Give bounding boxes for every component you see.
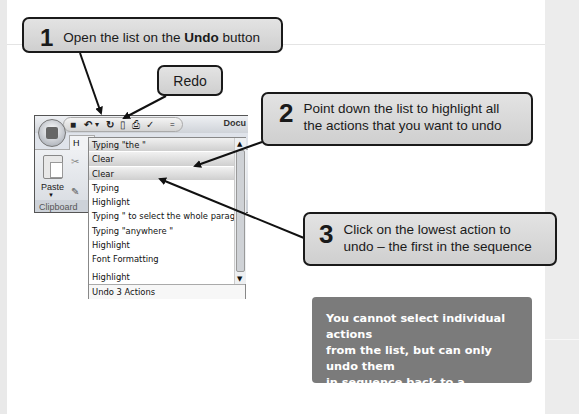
step-text: Point down the list to highlight all the… [303, 100, 501, 134]
list-item[interactable]: Font Formatting [89, 252, 234, 266]
divider [545, 339, 579, 340]
step-text: Click on the lowest action to undo – the… [343, 221, 531, 255]
title-bar: ■ ↶ ▾ ↻ ▯ ⎙ ✓ = Docu [35, 116, 248, 133]
undo-button[interactable]: ↶ [84, 118, 92, 131]
list-item[interactable]: Typing "the " [89, 138, 234, 152]
document-title: Docu [224, 118, 247, 128]
office-logo-icon [46, 127, 58, 139]
step-number: 1 [40, 26, 53, 50]
info-line: in sequence back to a selected point. [326, 375, 522, 407]
redo-callout: Redo [157, 65, 223, 96]
list-item[interactable]: Typing "anywhere " [89, 224, 234, 238]
undo-dropdown-arrow[interactable]: ▾ [95, 118, 99, 131]
scroll-down-icon[interactable]: ▼ [237, 275, 242, 283]
info-line: from the list, but can only undo them [326, 343, 522, 375]
office-button[interactable] [38, 119, 66, 147]
step-number: 2 [279, 100, 293, 126]
undo-count-status: Undo 3 Actions [89, 284, 245, 299]
page-margin-left [0, 0, 7, 414]
new-document-icon[interactable]: ▯ [120, 118, 126, 131]
info-line: You cannot select individual actions [326, 311, 522, 343]
step-3-callout: 3 Click on the lowest action to undo – t… [303, 212, 557, 266]
paste-icon[interactable] [43, 155, 63, 179]
customize-toolbar-button[interactable]: = [170, 118, 175, 131]
step-number: 3 [319, 221, 333, 247]
list-item[interactable]: Highlight [89, 270, 234, 284]
chevron-down-icon[interactable]: ▼ [48, 192, 54, 198]
list-item[interactable]: Clear [89, 152, 234, 166]
cut-icon[interactable]: ✂ [71, 156, 79, 167]
list-item[interactable]: Typing [89, 181, 234, 195]
paste-button-label[interactable]: Paste [41, 182, 64, 192]
list-item[interactable]: Typing " to select the whole paragraph" [89, 209, 234, 223]
info-note: You cannot select individual actions fro… [312, 297, 532, 383]
scrollbar[interactable]: ▲ ▼ [234, 138, 246, 284]
print-icon[interactable]: ⎙ [132, 118, 140, 131]
quick-access-toolbar: ■ ↶ ▾ ↻ ▯ ⎙ ✓ = [63, 117, 183, 132]
redo-button[interactable]: ↻ [106, 118, 114, 131]
step-1-callout: 1 Open the list on the Undo button [22, 17, 283, 53]
list-item[interactable]: Clear [89, 167, 234, 181]
format-painter-icon[interactable]: ✎ [71, 186, 79, 197]
spelling-icon[interactable]: ✓ [146, 118, 154, 131]
page-margin-right [545, 0, 579, 414]
list-item[interactable]: Highlight [89, 195, 234, 209]
redo-label: Redo [173, 73, 206, 89]
step-text: Open the list on the Undo button [63, 29, 260, 46]
step-2-callout: 2 Point down the list to highlight all t… [261, 92, 533, 146]
save-icon[interactable]: ■ [70, 118, 76, 131]
scroll-up-icon[interactable]: ▲ [237, 140, 242, 148]
list-item[interactable]: Highlight [89, 238, 234, 252]
scrollbar-thumb[interactable] [236, 150, 245, 272]
undo-history-list: Typing "the " Clear Clear Typing Highlig… [88, 137, 246, 299]
